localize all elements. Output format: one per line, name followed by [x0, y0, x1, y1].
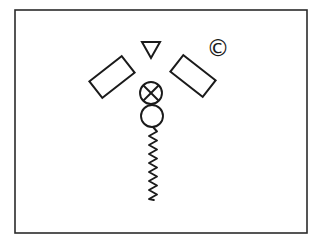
copyright-symbol-icon: © [207, 35, 230, 61]
diagram-canvas: © [0, 0, 321, 246]
figure-svg: © [0, 0, 321, 246]
